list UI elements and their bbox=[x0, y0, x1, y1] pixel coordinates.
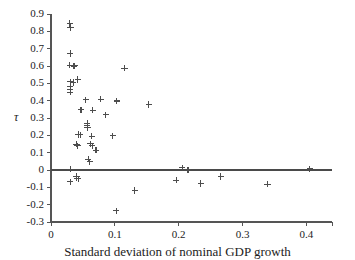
data-point-marker bbox=[78, 107, 84, 113]
data-point-marker bbox=[67, 20, 73, 26]
y-tick-label: 0.4 bbox=[30, 95, 44, 106]
plot-canvas bbox=[0, 0, 355, 260]
data-point-marker bbox=[75, 76, 81, 82]
x-axis-title: Standard deviation of nominal GDP growth bbox=[0, 244, 355, 260]
y-tick-label: -0.1 bbox=[27, 181, 44, 192]
data-point-marker bbox=[98, 96, 104, 102]
y-tick-label: 0.8 bbox=[30, 25, 44, 36]
data-point-marker bbox=[67, 179, 73, 185]
y-tick-label: 0.2 bbox=[30, 129, 44, 140]
data-point-marker bbox=[89, 133, 95, 139]
y-tick-label: 0.1 bbox=[30, 147, 44, 158]
data-point-marker bbox=[67, 24, 73, 30]
y-tick-label: 0.5 bbox=[30, 77, 44, 88]
data-point-marker bbox=[74, 143, 80, 149]
data-point-marker bbox=[114, 98, 120, 104]
data-point-marker bbox=[307, 166, 313, 172]
axes bbox=[47, 14, 332, 226]
x-tick-label: 0 bbox=[31, 229, 71, 240]
data-point-marker bbox=[110, 133, 116, 139]
y-tick-label: 0.7 bbox=[30, 43, 44, 54]
data-point-marker bbox=[218, 173, 224, 179]
y-tick-label: -0.2 bbox=[27, 199, 44, 210]
data-point-marker bbox=[264, 181, 270, 187]
x-tick-label: 0.1 bbox=[95, 229, 135, 240]
data-point-marker bbox=[173, 177, 179, 183]
data-point-marker bbox=[93, 147, 99, 153]
data-point-marker bbox=[77, 132, 83, 138]
scatter-plot-figure: -0.3-0.2-0.100.10.20.30.40.50.60.70.80.9… bbox=[0, 0, 355, 260]
y-tick-label: 0.9 bbox=[30, 8, 44, 19]
y-axis-title: τ bbox=[14, 110, 18, 125]
data-markers bbox=[67, 20, 313, 213]
y-tick-label: -0.3 bbox=[27, 216, 44, 227]
data-point-marker bbox=[67, 50, 73, 56]
x-tick-label: 0.2 bbox=[159, 229, 199, 240]
data-point-marker bbox=[67, 166, 73, 172]
data-point-marker bbox=[103, 112, 109, 118]
data-point-marker bbox=[70, 79, 76, 85]
data-point-marker bbox=[73, 141, 79, 147]
data-point-marker bbox=[72, 63, 78, 69]
data-point-marker bbox=[121, 65, 127, 71]
y-tick-label: 0.6 bbox=[30, 60, 44, 71]
data-point-marker bbox=[185, 167, 191, 173]
y-tick-label: 0 bbox=[39, 164, 45, 175]
y-tick-label: 0.3 bbox=[30, 112, 44, 123]
data-point-marker bbox=[83, 97, 89, 103]
data-point-marker bbox=[132, 187, 138, 193]
data-point-marker bbox=[146, 101, 152, 107]
x-tick-label: 0.3 bbox=[223, 229, 263, 240]
x-tick-label: 0.4 bbox=[286, 229, 326, 240]
data-point-marker bbox=[90, 107, 96, 113]
data-point-marker bbox=[198, 180, 204, 186]
data-point-marker bbox=[113, 208, 119, 214]
